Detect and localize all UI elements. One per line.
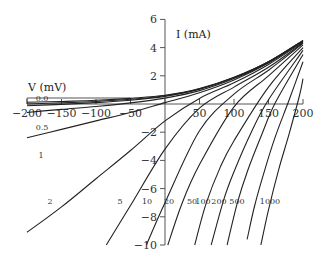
- curve-label: 1000: [260, 197, 280, 206]
- curve-label: 200: [211, 197, 226, 206]
- axes: −200−150−100−5050100150200642−2−4−6−8−10: [12, 13, 314, 252]
- curve-5: [106, 43, 303, 245]
- y-axis-title: I (mA): [176, 28, 211, 41]
- y-tick-label: 4: [150, 42, 157, 55]
- curve-label: 0.0: [36, 94, 49, 103]
- curve-label: 500: [229, 197, 244, 206]
- x-axis-title: V (mV): [27, 81, 66, 94]
- curve-label: 100: [195, 197, 210, 206]
- y-tick-label: −10: [134, 239, 157, 252]
- curve-label: 2: [47, 197, 52, 206]
- y-tick-label: 2: [150, 70, 157, 83]
- curve-100: [211, 50, 303, 245]
- y-tick-label: 6: [150, 13, 157, 26]
- y-tick-label: −8: [141, 211, 157, 224]
- iv-curve-chart: −200−150−100−5050100150200642−2−4−6−8−10…: [0, 0, 327, 259]
- curve-label: 10: [142, 197, 152, 206]
- y-tick-label: −2: [141, 126, 157, 139]
- curve-label: 20: [164, 197, 174, 206]
- curve-label: 5: [117, 197, 122, 206]
- x-tick-label: −200: [12, 107, 42, 120]
- curve-label: 1: [38, 151, 43, 160]
- curve-20: [168, 45, 303, 245]
- curve-200: [227, 55, 303, 245]
- x-tick-label: −50: [119, 107, 142, 120]
- curve-50: [195, 48, 303, 245]
- curve-label: 0.5: [36, 123, 49, 132]
